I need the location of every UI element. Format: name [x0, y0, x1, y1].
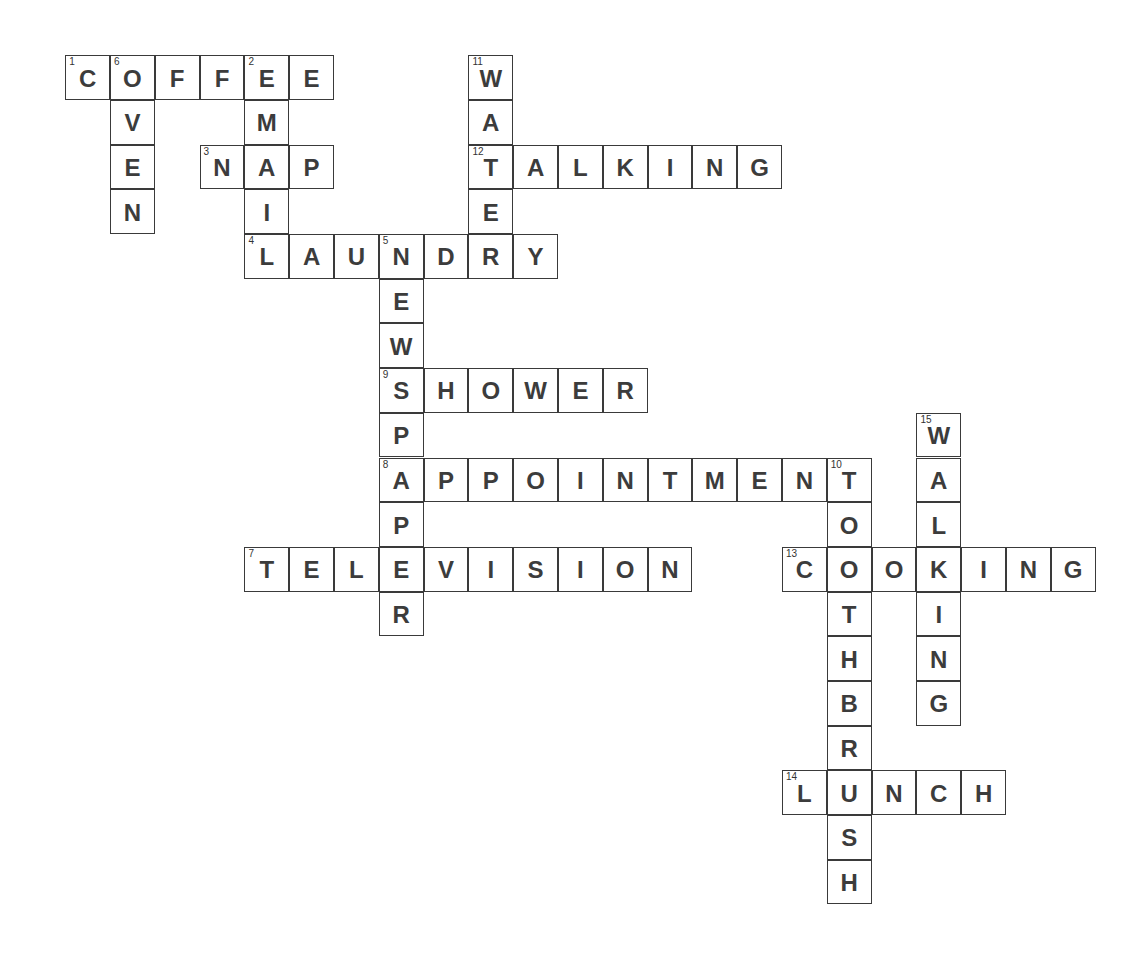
crossword-cell: E: [379, 547, 424, 592]
cell-letter: E: [738, 459, 781, 502]
crossword-cell: A: [916, 458, 961, 503]
crossword-cell: E: [289, 547, 334, 592]
cell-letter: N: [873, 771, 916, 814]
crossword-cell: 15W: [916, 413, 961, 458]
crossword-cell: R: [468, 234, 513, 279]
crossword-cell: H: [827, 636, 872, 681]
cell-letter: E: [290, 56, 333, 99]
crossword-cell: P: [379, 413, 424, 458]
crossword-cell: K: [603, 145, 648, 190]
crossword-cell: A: [513, 145, 558, 190]
crossword-cell: 2E: [244, 55, 289, 100]
crossword-cell: D: [424, 234, 469, 279]
crossword-cell: W: [379, 323, 424, 368]
cell-letter: O: [873, 548, 916, 591]
cell-letter: E: [290, 548, 333, 591]
crossword-cell: M: [244, 100, 289, 145]
cell-letter: T: [469, 146, 512, 189]
cell-letter: N: [604, 459, 647, 502]
crossword-cell: R: [603, 368, 648, 413]
crossword-cell: O: [827, 547, 872, 592]
cell-letter: E: [559, 369, 602, 412]
crossword-cell: P: [424, 458, 469, 503]
cell-letter: W: [917, 414, 960, 457]
cell-letter: N: [201, 146, 244, 189]
crossword-cell: K: [916, 547, 961, 592]
cell-letter: N: [783, 459, 826, 502]
crossword-cell: G: [737, 145, 782, 190]
crossword-cell: Y: [513, 234, 558, 279]
crossword-cell: R: [827, 726, 872, 771]
crossword-cell: E: [468, 189, 513, 234]
crossword-cell: P: [289, 145, 334, 190]
cell-letter: N: [649, 548, 692, 591]
cell-letter: O: [469, 369, 512, 412]
crossword-cell: I: [468, 547, 513, 592]
cell-letter: T: [828, 593, 871, 636]
cell-letter: I: [469, 548, 512, 591]
crossword-cell: I: [558, 547, 603, 592]
cell-letter: E: [469, 190, 512, 233]
crossword-cell: U: [827, 770, 872, 815]
crossword-cell: P: [379, 502, 424, 547]
crossword-cell: I: [916, 592, 961, 637]
cell-letter: G: [1052, 548, 1095, 591]
cell-letter: R: [469, 235, 512, 278]
cell-letter: A: [917, 459, 960, 502]
crossword-cell: 10T: [827, 458, 872, 503]
crossword-cell: G: [916, 681, 961, 726]
cell-letter: H: [828, 861, 871, 904]
cell-letter: N: [111, 190, 154, 233]
cell-letter: L: [335, 548, 378, 591]
crossword-cell: M: [692, 458, 737, 503]
crossword-cell: N: [872, 770, 917, 815]
cell-letter: N: [1007, 548, 1050, 591]
cell-letter: N: [693, 146, 736, 189]
cell-letter: A: [469, 101, 512, 144]
crossword-cell: E: [289, 55, 334, 100]
cell-letter: O: [514, 459, 557, 502]
cell-letter: H: [828, 637, 871, 680]
crossword-cell: A: [244, 145, 289, 190]
cell-letter: A: [380, 459, 423, 502]
cell-letter: C: [66, 56, 109, 99]
crossword-grid: 1C6OFF2EEMAI4L3NPAU5NDRYEW9SP8APERVEN7TE…: [0, 0, 1139, 979]
crossword-cell: 9S: [379, 368, 424, 413]
cell-letter: H: [425, 369, 468, 412]
cell-letter: K: [604, 146, 647, 189]
crossword-cell: E: [737, 458, 782, 503]
cell-letter: R: [604, 369, 647, 412]
crossword-cell: C: [916, 770, 961, 815]
crossword-cell: 13C: [782, 547, 827, 592]
cell-letter: I: [962, 548, 1005, 591]
crossword-cell: N: [1006, 547, 1051, 592]
cell-letter: D: [425, 235, 468, 278]
crossword-cell: 11W: [468, 55, 513, 100]
crossword-cell: F: [200, 55, 245, 100]
crossword-cell: O: [468, 368, 513, 413]
crossword-cell: I: [648, 145, 693, 190]
crossword-cell: O: [603, 547, 648, 592]
cell-letter: P: [380, 503, 423, 546]
crossword-cell: A: [468, 100, 513, 145]
crossword-cell: N: [110, 189, 155, 234]
cell-letter: B: [828, 682, 871, 725]
cell-letter: W: [380, 324, 423, 367]
crossword-cell: G: [1051, 547, 1096, 592]
crossword-cell: H: [961, 770, 1006, 815]
crossword-cell: 12T: [468, 145, 513, 190]
cell-letter: P: [290, 146, 333, 189]
cell-letter: W: [469, 56, 512, 99]
crossword-cell: 14L: [782, 770, 827, 815]
crossword-cell: S: [827, 815, 872, 860]
crossword-cell: 6O: [110, 55, 155, 100]
crossword-cell: A: [289, 234, 334, 279]
crossword-cell: 5N: [379, 234, 424, 279]
crossword-cell: V: [424, 547, 469, 592]
crossword-cell: S: [513, 547, 558, 592]
cell-letter: N: [917, 637, 960, 680]
cell-letter: V: [425, 548, 468, 591]
cell-letter: G: [917, 682, 960, 725]
crossword-cell: T: [827, 592, 872, 637]
cell-letter: A: [514, 146, 557, 189]
